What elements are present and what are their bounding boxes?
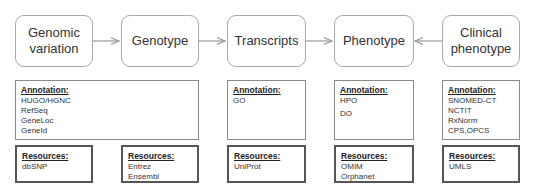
resources-header: Resources: xyxy=(449,150,513,162)
resource-item: UniProt xyxy=(234,162,299,172)
resources-header: Resources: xyxy=(22,150,86,162)
node-label: Genomic variation xyxy=(28,25,80,57)
annotation-box-phenotype: Annotation: HPO DO xyxy=(334,80,414,140)
resource-item: dbSNP xyxy=(22,162,86,172)
node-label: Clinical phenotype xyxy=(451,25,512,57)
annotation-header: Annotation: xyxy=(233,84,300,96)
resources-box-transcripts: Resources: UniProt xyxy=(227,145,306,183)
annotation-item: GeneLoc xyxy=(21,116,193,126)
resources-box-genomic: Resources: dbSNP xyxy=(15,145,93,183)
node-label: Transcripts xyxy=(235,33,299,49)
resources-header: Resources: xyxy=(234,150,299,162)
annotation-item: GO xyxy=(233,96,300,106)
node-phenotype: Phenotype xyxy=(334,15,414,67)
annotation-box-transcripts: Annotation: GO xyxy=(227,80,306,140)
resources-box-phenotype: Resources: OMIM Orphanet xyxy=(334,145,414,183)
annotation-box-genomic: Annotation: HUGO/HGNC RefSeq GeneLoc Gen… xyxy=(15,80,199,140)
node-genomic-variation: Genomic variation xyxy=(15,15,93,67)
annotation-item: HPO xyxy=(340,96,408,106)
annotation-box-clinical: Annotation: SNOMED-CT NCTIT RxNorm CPS,O… xyxy=(442,80,520,140)
annotation-item: SNOMED-CT xyxy=(448,96,514,106)
resource-item: Entrez xyxy=(128,162,192,172)
annotation-header: Annotation: xyxy=(448,84,514,96)
annotation-item: RefSeq xyxy=(21,106,193,116)
annotation-item: DO xyxy=(340,109,408,119)
node-label: Genotype xyxy=(132,33,188,49)
annotation-item: RxNorm xyxy=(448,116,514,126)
resource-item: Orphanet xyxy=(341,172,407,182)
node-clinical-phenotype: Clinical phenotype xyxy=(442,15,520,67)
node-genotype: Genotype xyxy=(121,15,199,67)
annotation-header: Annotation: xyxy=(21,84,193,96)
node-transcripts: Transcripts xyxy=(227,15,306,67)
annotation-item: NCTIT xyxy=(448,106,514,116)
annotation-item: GeneId xyxy=(21,126,193,136)
resources-box-clinical: Resources: UMLS xyxy=(442,145,520,183)
resource-item: OMIM xyxy=(341,162,407,172)
resource-item: Ensembl xyxy=(128,172,192,182)
resources-box-genotype: Resources: Entrez Ensembl xyxy=(121,145,199,183)
resources-header: Resources: xyxy=(128,150,192,162)
annotation-item: CPS,OPCS xyxy=(448,126,514,136)
node-label: Phenotype xyxy=(343,33,405,49)
annotation-item: HUGO/HGNC xyxy=(21,96,193,106)
annotation-header: Annotation: xyxy=(340,84,408,96)
resources-header: Resources: xyxy=(341,150,407,162)
resource-item: UMLS xyxy=(449,162,513,172)
